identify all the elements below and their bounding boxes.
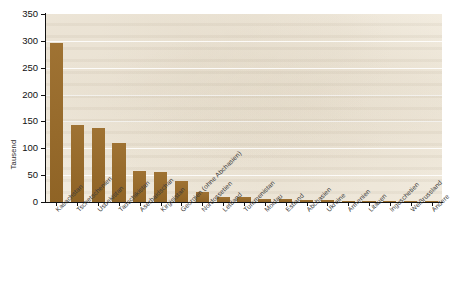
x-tick-label: Tschetschenien	[75, 175, 113, 213]
x-axis-labels: KasachstanTschetschenienUsbekistanTadsch…	[0, 0, 450, 304]
x-tick-label: Litauen	[367, 192, 388, 213]
x-tick-label: Ukraine	[325, 191, 347, 213]
x-tick-label: Lettland	[221, 191, 243, 213]
bar-chart: Tausend 050100150200250300350 Kasachstan…	[0, 0, 450, 304]
x-tick-label: Estland	[284, 192, 305, 213]
x-tick-label: Andere	[430, 193, 450, 213]
x-tick-label: Moldau	[263, 192, 284, 213]
